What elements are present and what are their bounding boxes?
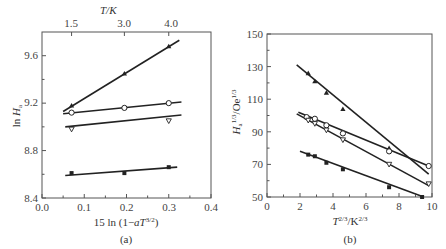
chart-b-fit-lines: [297, 65, 429, 197]
series-1-fit-line: [63, 40, 179, 111]
series-4-marker: [167, 165, 171, 169]
series-D-marker: [313, 154, 317, 158]
chart-a-x-tick: 0.4: [204, 201, 218, 213]
chart-b-frame: [267, 34, 432, 197]
chart-b-y-tick: 70: [252, 158, 264, 170]
chart-a-y-tick: 8.8: [24, 144, 38, 156]
series-D-marker: [341, 167, 345, 171]
series-D-marker: [420, 195, 424, 199]
chart-a: T/K 1.5 3.0 4.0 0.0 0.1 0.2 0.3 0.4 8.4 …: [10, 4, 218, 246]
series-3-fit-line: [65, 115, 181, 127]
series-4-marker: [122, 171, 126, 175]
chart-a-y-axis-label: ln Ha: [10, 104, 24, 127]
chart-b-panel-label: (b): [344, 233, 357, 246]
chart-a-top-tick: 3.0: [117, 17, 131, 29]
chart-b-markers: [304, 71, 431, 199]
chart-b-x-tick: 8: [396, 200, 402, 212]
chart-b-y-tick: 150: [247, 28, 264, 40]
series-4-marker: [70, 171, 74, 175]
chart-b-x-tick: 0: [264, 200, 270, 212]
chart-b-x-tick: 6: [363, 200, 369, 212]
series-D-marker: [306, 153, 310, 157]
series-3-marker: [166, 119, 171, 124]
series-3-marker: [69, 127, 74, 132]
chart-a-x-axis-label: 15 ln (1−aT3/2): [94, 216, 159, 229]
chart-a-markers: [69, 44, 171, 175]
chart-a-x-tick: 0.2: [120, 201, 134, 213]
chart-a-y-tick: 9.6: [24, 49, 38, 61]
series-D-marker: [387, 185, 391, 189]
chart-b-y-tick: 90: [252, 126, 264, 138]
chart-a-top-tick: 4.0: [164, 17, 178, 29]
series-D-fit-line: [300, 151, 424, 197]
chart-b-y-tick: 130: [247, 61, 264, 73]
chart-b-x-axis-label: T2/3/K2/3: [332, 215, 368, 227]
chart-b-y-tick: 50: [252, 191, 264, 203]
chart-a-panel-label: (a): [120, 233, 133, 246]
chart-a-top-tick: 1.5: [64, 17, 78, 29]
chart-a-y-tick: 9.2: [24, 96, 38, 108]
figure: T/K 1.5 3.0 4.0 0.0 0.1 0.2 0.3 0.4 8.4 …: [0, 0, 446, 249]
chart-a-top-axis-label: T/K: [100, 4, 117, 16]
chart-b-y-tick: 110: [247, 93, 264, 105]
chart-a-ticks: [42, 32, 211, 198]
series-B-marker: [426, 163, 431, 168]
series-D-marker: [324, 161, 328, 165]
chart-a-x-tick: 0.1: [77, 201, 91, 213]
chart-b-ticks: [267, 34, 432, 197]
series-B-marker: [324, 123, 329, 128]
series-B-marker: [312, 116, 317, 121]
chart-a-y-tick: 8.4: [24, 192, 38, 204]
series-2-marker: [122, 105, 127, 110]
chart-b-x-tick: 10: [427, 200, 439, 212]
series-2-marker: [69, 110, 74, 115]
chart-b-x-tick: 4: [330, 200, 336, 212]
chart-b-y-axis-label: Ha1/3/Oe1/3: [230, 89, 244, 135]
series-2-marker: [166, 101, 171, 106]
series-B-marker: [387, 149, 392, 154]
chart-a-x-tick: 0.3: [162, 201, 176, 213]
chart-b: 0 2 4 6 8 10 50 70 90 110 130 150 Ha1/3/…: [230, 28, 438, 246]
chart-a-frame: [42, 32, 211, 198]
series-A-marker: [340, 106, 345, 111]
series-4-fit-line: [65, 167, 177, 175]
series-B-marker: [340, 131, 345, 136]
chart-b-x-tick: 2: [297, 200, 303, 212]
